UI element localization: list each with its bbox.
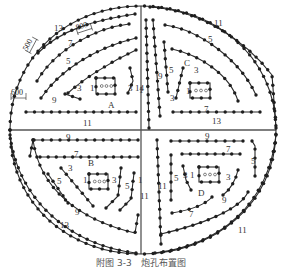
blasthole-icon xyxy=(234,175,237,178)
ring-number-label: 1 xyxy=(90,83,95,93)
blasthole-icon xyxy=(8,133,11,136)
ring-9-b xyxy=(33,140,138,233)
blasthole-icon xyxy=(94,85,97,88)
blasthole-icon xyxy=(214,139,217,142)
blasthole-icon xyxy=(88,75,91,78)
blasthole-icon xyxy=(112,155,115,158)
blasthole-icon xyxy=(203,38,206,41)
blasthole-icon xyxy=(86,198,89,201)
blasthole-icon xyxy=(15,170,18,173)
blasthole-icon xyxy=(230,220,233,223)
blasthole-icon xyxy=(111,44,114,47)
blasthole-icon xyxy=(183,226,186,229)
blasthole-icon xyxy=(153,251,156,254)
blasthole-icon xyxy=(39,96,42,99)
blasthole-icon xyxy=(55,155,58,158)
blasthole-icon xyxy=(197,110,200,113)
empty-cut-hole-icon xyxy=(105,85,108,88)
blasthole-icon xyxy=(79,155,82,158)
blasthole-icon xyxy=(178,81,181,84)
empty-cut-hole-icon xyxy=(110,85,113,88)
blasthole-icon xyxy=(81,58,84,61)
blasthole-icon xyxy=(147,101,150,104)
blasthole-icon xyxy=(153,45,156,48)
empty-cut-hole-icon xyxy=(100,85,103,88)
blasthole-icon xyxy=(241,110,244,113)
blasthole-icon xyxy=(170,211,173,214)
blasthole-icon xyxy=(9,137,12,140)
blasthole-icon xyxy=(246,79,249,82)
dimension-500: 500 xyxy=(21,35,39,54)
blasthole-icon xyxy=(238,152,241,155)
blasthole-icon xyxy=(162,40,165,43)
blasthole-icon xyxy=(8,128,11,131)
blasthole-icon xyxy=(241,72,244,75)
blasthole-icon xyxy=(117,110,120,113)
blasthole-icon xyxy=(233,91,236,94)
blasthole-icon xyxy=(126,52,129,55)
blasthole-icon xyxy=(273,142,276,145)
blasthole-icon xyxy=(155,138,158,141)
blasthole-icon xyxy=(210,195,213,198)
blasthole-icon xyxy=(242,209,245,212)
blasthole-icon xyxy=(49,41,52,44)
ring-5-a xyxy=(41,38,136,98)
blasthole-icon xyxy=(196,139,199,142)
blasthole-icon xyxy=(71,230,74,233)
blasthole-icon xyxy=(132,171,135,174)
blasthole-icon xyxy=(154,53,157,56)
blasthole-icon xyxy=(260,62,263,65)
blasthole-icon xyxy=(35,79,38,82)
blasthole-icon xyxy=(41,110,44,113)
blasthole-icon xyxy=(126,38,129,41)
blasthole-icon xyxy=(159,232,162,235)
blasthole-icon xyxy=(113,92,116,95)
blasthole-icon xyxy=(222,152,225,155)
blasthole-icon xyxy=(96,50,99,53)
ring-13-a xyxy=(38,14,135,53)
blasthole-icon xyxy=(242,44,245,47)
blasthole-icon xyxy=(38,163,41,166)
blasthole-icon xyxy=(223,77,226,80)
ring-number-label: 9 xyxy=(158,71,163,81)
blasthole-icon xyxy=(179,50,182,53)
ring-number-label: 13 xyxy=(60,220,70,230)
blasthole-icon xyxy=(250,139,253,142)
blasthole-icon xyxy=(223,225,226,228)
blasthole-icon xyxy=(186,181,189,184)
ring-number-label: 1 xyxy=(186,86,191,96)
blasthole-icon xyxy=(126,110,129,113)
blasthole-icon xyxy=(88,54,91,57)
blasthole-icon xyxy=(48,37,51,40)
blasthole-icon xyxy=(63,155,66,158)
blasthole-icon xyxy=(229,84,232,87)
blasthole-icon xyxy=(118,175,121,178)
ring-number-label: 5 xyxy=(66,56,71,66)
blasthole-icon xyxy=(14,158,17,161)
blasthole-icon xyxy=(178,139,181,142)
ring-number-label: 7 xyxy=(204,104,209,114)
blasthole-icon xyxy=(164,65,167,68)
blasthole-icon xyxy=(217,48,220,51)
blasthole-icon xyxy=(22,71,25,74)
blasthole-icon xyxy=(169,180,172,183)
blasthole-icon xyxy=(68,67,71,70)
blasthole-icon xyxy=(210,65,213,68)
blasthole-icon xyxy=(232,110,235,113)
blasthole-icon xyxy=(119,24,122,27)
blasthole-icon xyxy=(205,152,208,155)
ring-number-label: 9 xyxy=(52,95,57,105)
blasthole-icon xyxy=(230,152,233,155)
blasthole-icon xyxy=(75,185,78,188)
blasthole-icon xyxy=(22,186,25,189)
blasthole-icon xyxy=(28,189,31,192)
ring-number-label: 7 xyxy=(74,149,79,159)
blasthole-icon xyxy=(47,179,50,182)
blasthole-icon xyxy=(146,85,149,88)
blasthole-icon xyxy=(81,192,84,195)
blasthole-icon xyxy=(94,31,97,34)
blasthole-icon xyxy=(128,155,131,158)
blasthole-icon xyxy=(274,126,277,129)
blasthole-icon xyxy=(58,192,61,195)
empty-cut-hole-icon xyxy=(93,180,96,183)
